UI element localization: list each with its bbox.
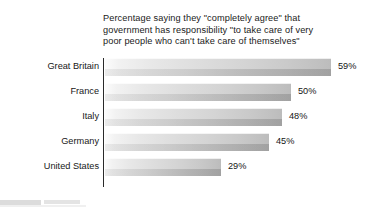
bar-value-label: 48%	[289, 110, 307, 122]
category-label: Germany	[61, 135, 99, 147]
chart-title: Percentage saying they "completely agree…	[103, 13, 365, 48]
scan-artifact	[0, 205, 86, 207]
bar-value-label: 29%	[228, 160, 246, 172]
table-row: Italy 48%	[0, 106, 378, 130]
bar-france	[105, 83, 291, 101]
bar-value-label: 50%	[298, 85, 316, 97]
category-label: Italy	[82, 110, 99, 122]
category-label: United States	[44, 160, 99, 172]
chart-title-line-2: government has responsibility "to take c…	[103, 25, 365, 37]
scan-artifact	[44, 200, 80, 204]
bar-italy	[105, 108, 282, 126]
table-row: Great Britain 59%	[0, 56, 378, 80]
table-row: France 50%	[0, 81, 378, 105]
table-row: United States 29%	[0, 156, 378, 180]
bar-germany	[105, 133, 269, 151]
bar-chart-figure: Percentage saying they "completely agree…	[0, 0, 378, 209]
bar-great-britain	[105, 58, 331, 76]
bar-united-states	[105, 158, 221, 176]
chart-title-line-1: Percentage saying they "completely agree…	[103, 13, 365, 25]
bar-value-label: 45%	[276, 135, 294, 147]
category-label: Great Britain	[47, 60, 99, 72]
plot-area: Great Britain 59% France 50% Italy 48% G…	[0, 56, 378, 188]
table-row: Germany 45%	[0, 131, 378, 155]
chart-title-line-3: poor people who can't take care of thems…	[103, 36, 365, 48]
bar-value-label: 59%	[338, 60, 356, 72]
category-label: France	[70, 85, 99, 97]
